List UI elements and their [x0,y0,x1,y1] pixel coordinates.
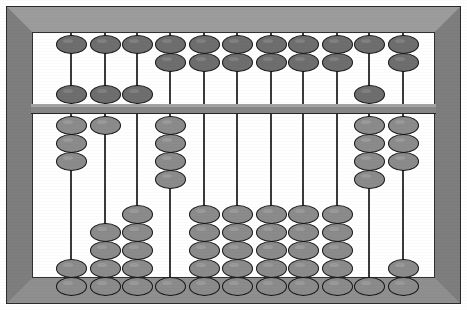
bead-highlight [329,209,339,213]
lower-bead-lowered[interactable] [322,277,353,296]
bead-highlight [361,281,371,285]
lower-bead-lowered[interactable] [90,277,121,296]
bead-highlight [63,89,73,93]
bead-highlight [361,138,371,142]
lower-bead-lowered[interactable] [322,241,353,260]
lower-bead-raised[interactable] [388,116,419,135]
lower-bead-lowered[interactable] [122,259,153,278]
lower-bead-lowered[interactable] [222,277,253,296]
lower-bead-lowered[interactable] [56,277,87,296]
lower-bead-lowered[interactable] [222,241,253,260]
lower-bead-raised[interactable] [155,170,186,189]
lower-bead-lowered[interactable] [222,205,253,224]
bead-highlight [361,89,371,93]
lower-bead-lowered[interactable] [288,277,319,296]
lower-bead-lowered[interactable] [189,223,220,242]
lower-bead-raised[interactable] [354,152,385,171]
upper-bead-raised[interactable] [189,53,220,72]
lower-bead-lowered[interactable] [222,223,253,242]
lower-bead-raised[interactable] [56,134,87,153]
bead-highlight [63,281,73,285]
lower-bead-lowered[interactable] [288,241,319,260]
lower-bead-lowered[interactable] [122,241,153,260]
lower-bead-raised[interactable] [90,116,121,135]
lower-bead-lowered[interactable] [155,277,186,296]
lower-bead-raised[interactable] [388,134,419,153]
upper-bead-raised[interactable] [189,35,220,54]
upper-bead-raised[interactable] [56,35,87,54]
upper-bead-raised[interactable] [155,35,186,54]
upper-bead-raised[interactable] [155,53,186,72]
upper-bead-raised[interactable] [388,53,419,72]
lower-bead-lowered[interactable] [122,223,153,242]
lower-bead-lowered[interactable] [322,259,353,278]
lower-bead-lowered[interactable] [90,259,121,278]
upper-bead-raised[interactable] [354,35,385,54]
upper-bead-lowered[interactable] [354,85,385,104]
upper-bead-raised[interactable] [256,53,287,72]
lower-bead-lowered[interactable] [388,277,419,296]
lower-bead-raised[interactable] [56,152,87,171]
bead-highlight [361,174,371,178]
bead-highlight [295,263,305,267]
upper-bead-raised[interactable] [90,35,121,54]
lower-bead-lowered[interactable] [288,223,319,242]
lower-bead-raised[interactable] [354,134,385,153]
lower-bead-raised[interactable] [155,152,186,171]
upper-bead-raised[interactable] [256,35,287,54]
lower-bead-lowered[interactable] [122,205,153,224]
upper-bead-raised[interactable] [322,35,353,54]
bead-highlight [395,39,405,43]
bead-highlight [361,156,371,160]
lower-bead-lowered[interactable] [288,205,319,224]
upper-bead-lowered[interactable] [56,85,87,104]
lower-bead-lowered[interactable] [288,259,319,278]
bead-highlight [229,209,239,213]
lower-bead-lowered[interactable] [189,277,220,296]
lower-bead-lowered[interactable] [90,223,121,242]
bead-highlight [295,57,305,61]
bead-highlight [162,138,172,142]
upper-bead-lowered[interactable] [122,85,153,104]
upper-bead-raised[interactable] [288,35,319,54]
lower-bead-lowered[interactable] [222,259,253,278]
lower-bead-lowered[interactable] [122,277,153,296]
lower-bead-lowered[interactable] [322,223,353,242]
lower-bead-raised[interactable] [354,116,385,135]
upper-bead-raised[interactable] [222,53,253,72]
bead-highlight [229,281,239,285]
lower-bead-raised[interactable] [388,152,419,171]
lower-bead-lowered[interactable] [189,241,220,260]
bead-highlight [97,120,107,124]
bead-highlight [295,39,305,43]
abacus [0,0,467,310]
lower-bead-lowered[interactable] [256,277,287,296]
bead-highlight [196,245,206,249]
lower-bead-lowered[interactable] [189,259,220,278]
upper-bead-raised[interactable] [388,35,419,54]
lower-bead-lowered[interactable] [189,205,220,224]
lower-bead-lowered[interactable] [322,205,353,224]
lower-bead-lowered[interactable] [256,205,287,224]
bead-highlight [229,227,239,231]
upper-bead-raised[interactable] [122,35,153,54]
lower-bead-raised[interactable] [155,116,186,135]
lower-bead-raised[interactable] [354,170,385,189]
lower-bead-lowered[interactable] [354,277,385,296]
lower-bead-lowered[interactable] [388,259,419,278]
bead-highlight [162,174,172,178]
lower-bead-lowered[interactable] [56,259,87,278]
lower-bead-lowered[interactable] [256,259,287,278]
upper-bead-raised[interactable] [288,53,319,72]
lower-bead-lowered[interactable] [90,241,121,260]
lower-bead-raised[interactable] [56,116,87,135]
lower-bead-lowered[interactable] [256,223,287,242]
upper-bead-raised[interactable] [322,53,353,72]
lower-bead-raised[interactable] [155,134,186,153]
lower-bead-lowered[interactable] [256,241,287,260]
bead-highlight [295,209,305,213]
upper-bead-lowered[interactable] [90,85,121,104]
upper-bead-raised[interactable] [222,35,253,54]
bead-highlight [395,156,405,160]
bead-highlight [229,39,239,43]
